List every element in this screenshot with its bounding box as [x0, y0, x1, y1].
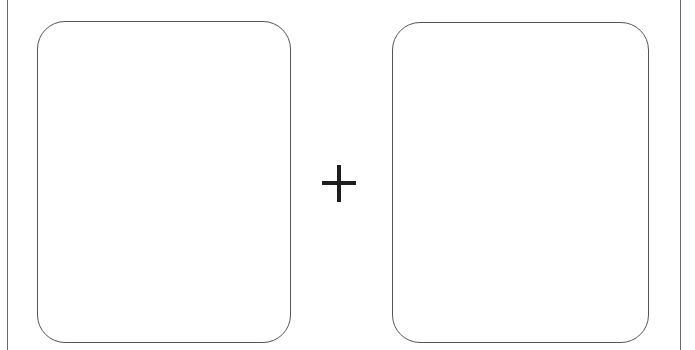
plus-icon: +: [322, 165, 356, 202]
plus-icon-vertical-bar: [337, 165, 341, 202]
right-operand-card: [392, 22, 649, 343]
right-operand-label: [393, 23, 394, 24]
left-operand-card: [37, 21, 291, 343]
frame-border-right: [680, 0, 681, 350]
operator-symbol: +: [322, 165, 323, 166]
left-operand-label: [38, 22, 39, 23]
frame-border-left: [7, 0, 8, 350]
